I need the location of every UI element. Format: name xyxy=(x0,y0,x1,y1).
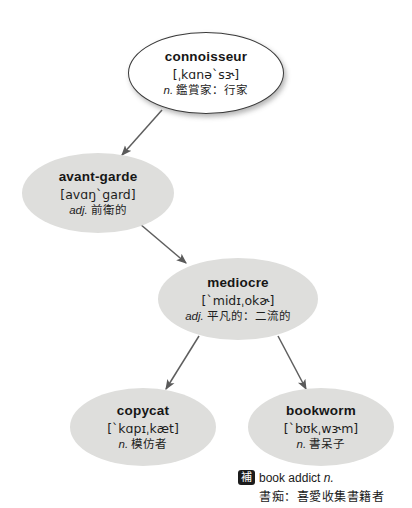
node-gloss-chinese: 書呆子 xyxy=(309,437,345,451)
node-part-of-speech: n. xyxy=(164,84,174,96)
node-phonetic: [avɑŋˋgard] xyxy=(60,187,135,202)
node-gloss: n. 鑑賞家：行家 xyxy=(164,83,249,97)
node-gloss-chinese: 鑑賞家：行家 xyxy=(176,83,248,97)
footnote-part-of-speech: n. xyxy=(324,471,334,485)
footnote-term-text: book addict xyxy=(259,471,320,485)
word-map-diagram: connoisseur [ˌkɑnəˋsɝ] n. 鑑賞家：行家 avant-g… xyxy=(0,0,412,508)
node-gloss-chinese: 模仿者 xyxy=(131,437,167,451)
node-gloss: adj. 前衛的 xyxy=(69,203,127,217)
node-word: bookworm xyxy=(286,403,356,419)
node-phonetic: [ˋkɑpɪˌkæt] xyxy=(107,421,179,436)
node-bookworm[interactable]: bookworm [ˋbʊkˌwɝm] n. 書呆子 xyxy=(248,388,394,466)
footnote-term-line: 補 book addict n. xyxy=(238,470,412,485)
node-gloss-chinese: 平凡的：二流的 xyxy=(207,309,291,323)
node-part-of-speech: adj. xyxy=(69,204,88,216)
supplementary-note: 補 book addict n. 書痴：喜愛收集書籍者 xyxy=(238,470,412,504)
edge-mediocre-to-bookworm xyxy=(278,336,306,389)
node-word: avant-garde xyxy=(59,169,138,185)
node-part-of-speech: n. xyxy=(297,438,307,450)
node-phonetic: [ˌkɑnəˋsɝ] xyxy=(173,67,239,82)
node-gloss-chinese: 前衛的 xyxy=(91,203,127,217)
node-connoisseur[interactable]: connoisseur [ˌkɑnəˋsɝ] n. 鑑賞家：行家 xyxy=(128,32,284,114)
node-word: mediocre xyxy=(207,275,269,291)
node-gloss: n. 模仿者 xyxy=(119,437,168,451)
node-word: connoisseur xyxy=(165,49,247,65)
node-avant-garde[interactable]: avant-garde [avɑŋˋgard] adj. 前衛的 xyxy=(22,153,174,233)
node-gloss: n. 書呆子 xyxy=(297,437,346,451)
node-phonetic: [ˋmidɪˌokɚ] xyxy=(202,293,275,308)
node-copycat[interactable]: copycat [ˋkɑpɪˌkæt] n. 模仿者 xyxy=(70,388,216,466)
node-gloss: adj. 平凡的：二流的 xyxy=(185,309,291,323)
edge-connoisseur-to-avant-garde xyxy=(122,110,162,155)
node-mediocre[interactable]: mediocre [ˋmidɪˌokɚ] adj. 平凡的：二流的 xyxy=(158,258,318,340)
footnote-term: book addict n. xyxy=(259,471,334,485)
footnote-gloss-chinese: 書痴：喜愛收集書籍者 xyxy=(259,487,412,504)
edge-avant-garde-to-mediocre xyxy=(140,224,186,263)
node-phonetic: [ˋbʊkˌwɝm] xyxy=(284,421,358,436)
edge-mediocre-to-copycat xyxy=(166,336,199,389)
supplement-badge-icon: 補 xyxy=(238,470,255,485)
node-part-of-speech: adj. xyxy=(185,310,204,322)
node-part-of-speech: n. xyxy=(119,438,129,450)
node-word: copycat xyxy=(117,403,169,419)
